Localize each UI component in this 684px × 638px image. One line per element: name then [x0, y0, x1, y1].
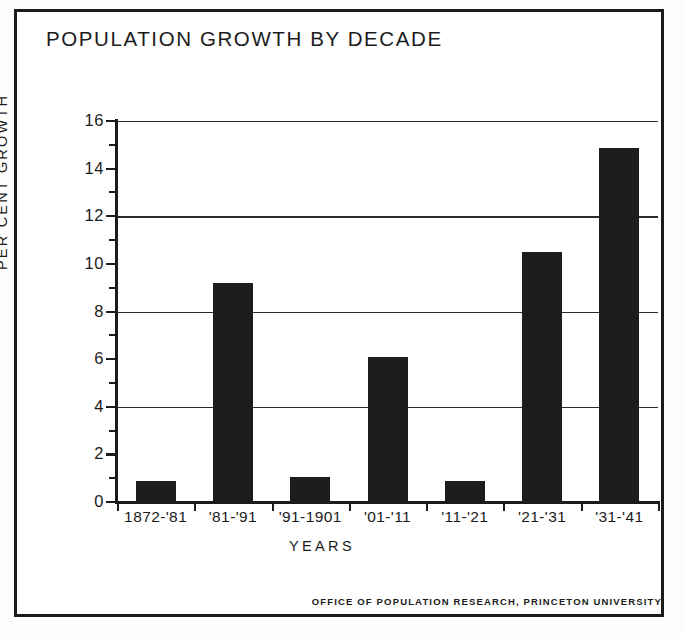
y-axis-tick-label: 2: [94, 444, 104, 463]
x-axis-tick-label: '11-'21: [426, 508, 503, 526]
gridline: [117, 121, 658, 122]
y-axis-tick-major: [106, 311, 117, 313]
y-axis-tick-label: 4: [94, 397, 104, 416]
y-axis-tick-label: 10: [84, 254, 104, 273]
y-axis-tick-label: 14: [84, 159, 104, 178]
x-axis-tick-label: '01-'11: [349, 508, 426, 526]
y-axis-tick-minor: [109, 239, 117, 241]
y-axis-tick-minor: [109, 477, 117, 479]
bar: [290, 477, 330, 502]
bar: [368, 357, 408, 502]
y-axis-tick-major: [106, 501, 117, 503]
y-axis-tick-minor: [109, 430, 117, 432]
bar: [522, 252, 562, 502]
y-axis-tick-label: 0: [94, 492, 104, 511]
x-axis-tick-label: 1872-'81: [117, 508, 194, 526]
bar: [445, 481, 485, 502]
bar: [213, 283, 253, 502]
x-axis-tick-label: '81-'91: [194, 508, 271, 526]
y-axis-tick-label: 6: [94, 349, 104, 368]
y-axis-tick-labels: 0246810121416: [60, 121, 104, 502]
x-axis-title: YEARS: [0, 538, 684, 554]
x-axis-tick: [658, 502, 660, 511]
y-axis-tick-minor: [109, 334, 117, 336]
gridline: [117, 312, 658, 313]
y-axis-tick-minor: [109, 382, 117, 384]
y-axis-title: PER CENT GROWTH: [0, 94, 10, 270]
x-axis-tick-label: '31-'41: [581, 508, 658, 526]
credit-line: OFFICE OF POPULATION RESEARCH, PRINCETON…: [312, 596, 662, 607]
y-axis-tick-minor: [109, 144, 117, 146]
y-axis-tick-minor: [109, 287, 117, 289]
y-axis-tick-minor: [109, 191, 117, 193]
y-axis-tick-label: 8: [94, 302, 104, 321]
chart-page: POPULATION GROWTH BY DECADE 024681012141…: [0, 0, 684, 638]
bar: [136, 481, 176, 502]
x-axis-tick-label: '91-1901: [272, 508, 349, 526]
chart-title: POPULATION GROWTH BY DECADE: [46, 27, 443, 51]
y-axis-tick-major: [106, 168, 117, 170]
plot-area: [117, 121, 658, 502]
y-axis-tick-major: [106, 358, 117, 360]
x-axis-title-text: YEARS: [289, 538, 355, 554]
y-axis-tick-label: 16: [84, 111, 104, 130]
y-axis-tick-major: [106, 263, 117, 265]
bar: [599, 148, 639, 502]
x-axis-tick-label: '21-'31: [503, 508, 580, 526]
y-axis-tick-major: [106, 215, 117, 217]
y-axis-tick-major: [106, 120, 117, 122]
y-axis-tick-major: [106, 406, 117, 408]
gridline: [117, 216, 658, 217]
y-axis-tick-label: 12: [84, 206, 104, 225]
y-axis-tick-major: [106, 453, 117, 455]
